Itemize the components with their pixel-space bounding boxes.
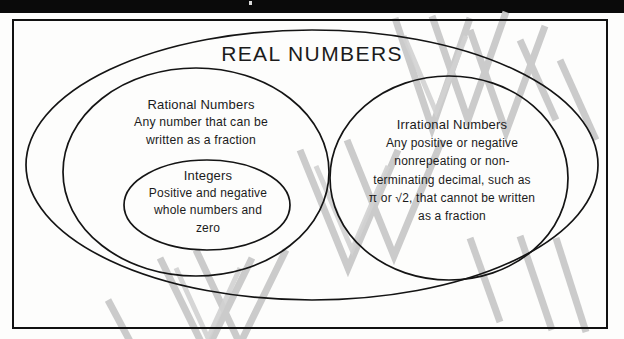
label-rational-numbers: Rational Numbers Any number that can be … [106, 97, 296, 147]
irrational-line-4: π or √2, that cannot be written [352, 191, 552, 205]
irrational-heading: Irrational Numbers [352, 117, 552, 132]
label-irrational-numbers: Irrational Numbers Any positive or negat… [352, 117, 552, 223]
header-bar-notch [249, 1, 252, 5]
title-real-numbers: REAL NUMBERS [0, 42, 624, 67]
rational-line-1: Any number that can be [106, 115, 296, 129]
irrational-line-5: as a fraction [352, 209, 552, 223]
irrational-line-2: nonrepeating or non- [352, 154, 552, 168]
rational-heading: Rational Numbers [106, 97, 296, 112]
integers-heading: Integers [128, 168, 288, 183]
integers-line-2: whole numbers and [128, 203, 288, 217]
page-root: REAL NUMBERS Rational Numbers Any number… [0, 0, 624, 339]
label-integers: Integers Positive and negative whole num… [128, 168, 288, 235]
integers-line-1: Positive and negative [128, 186, 288, 200]
integers-line-3: zero [128, 221, 288, 235]
header-bar [0, 0, 624, 13]
irrational-line-3: terminating decimal, such as [352, 173, 552, 187]
rational-line-2: written as a fraction [106, 133, 296, 147]
irrational-line-1: Any positive or negative [352, 136, 552, 150]
